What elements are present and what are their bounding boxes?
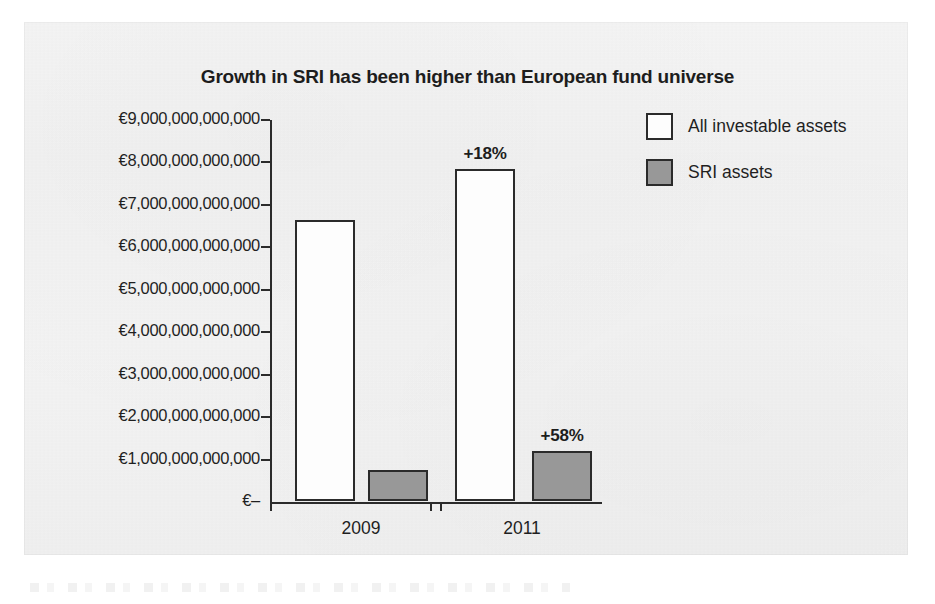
y-axis-tick-label: €6,000,000,000,000 — [119, 236, 260, 255]
y-axis-tick-labels: €9,000,000,000,000€8,000,000,000,000€7,0… — [48, 120, 260, 504]
y-axis-tick-label: €– — [242, 491, 260, 510]
y-axis-tick — [261, 246, 270, 248]
y-axis-tick — [261, 459, 270, 461]
bar-value-label: +58% — [532, 426, 592, 446]
bar-2011-all-investable-assets — [455, 169, 515, 501]
y-axis-tick — [261, 289, 270, 291]
cropped-caption-artifact — [30, 583, 570, 592]
chart-title: Growth in SRI has been higher than Europ… — [0, 66, 935, 88]
legend-item-all-investable-assets: All investable assets — [646, 113, 916, 140]
bar-value-label: +18% — [455, 144, 515, 164]
y-axis-tick — [261, 204, 270, 206]
legend-item-sri-assets: SRI assets — [646, 159, 916, 186]
y-axis-tick — [261, 161, 270, 163]
legend-label-sri-assets: SRI assets — [688, 162, 773, 183]
bar-2009-all-investable-assets — [295, 220, 355, 501]
y-axis-tick-label: €7,000,000,000,000 — [119, 194, 260, 213]
legend-label-all-investable-assets: All investable assets — [688, 116, 847, 137]
y-axis-tick-label: €2,000,000,000,000 — [119, 406, 260, 425]
x-axis-tick — [440, 502, 442, 511]
y-axis-tick-label: €5,000,000,000,000 — [119, 279, 260, 298]
x-axis-tick — [270, 502, 272, 511]
y-axis-tick-label: €1,000,000,000,000 — [119, 449, 260, 468]
scanned-page: Growth in SRI has been higher than Europ… — [0, 0, 935, 604]
x-axis-category-label-2009: 2009 — [301, 518, 421, 539]
x-axis-category-label-2011: 2011 — [462, 518, 582, 539]
y-axis-tick-label: €3,000,000,000,000 — [119, 364, 260, 383]
y-axis-line — [270, 120, 272, 504]
chart-legend: All investable assets SRI assets — [646, 113, 916, 205]
plot-area: 2009+18%+58%2011 — [270, 120, 602, 503]
legend-swatch-icon-sri-assets — [646, 159, 673, 186]
x-axis-line — [270, 502, 602, 504]
x-axis-tick — [430, 502, 432, 511]
y-axis-tick — [261, 331, 270, 333]
y-axis-tick — [261, 416, 270, 418]
y-axis-tick-label: €8,000,000,000,000 — [119, 151, 260, 170]
y-axis-tick-label: €4,000,000,000,000 — [119, 321, 260, 340]
bar-2011-sri-assets — [532, 451, 592, 501]
y-axis-tick — [261, 119, 270, 121]
legend-swatch-icon-all-investable-assets — [646, 113, 673, 140]
y-axis-tick-label: €9,000,000,000,000 — [119, 109, 260, 128]
bar-2009-sri-assets — [368, 470, 428, 501]
y-axis-tick — [261, 374, 270, 376]
